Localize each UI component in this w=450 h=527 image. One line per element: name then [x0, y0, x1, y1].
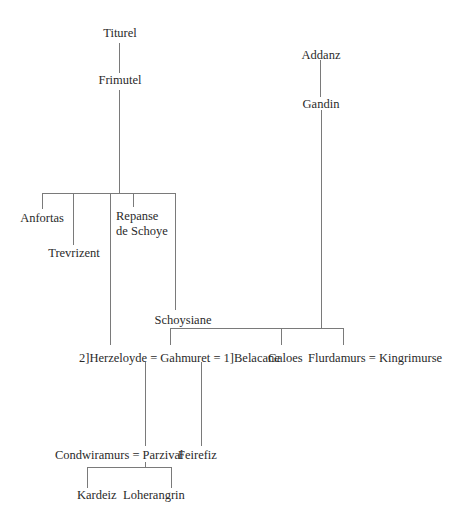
connector-gandin-children	[321, 110, 322, 328]
connector-herzeloyde-parzival	[145, 362, 146, 446]
node-addanz: Addanz	[302, 49, 341, 62]
node-schoysiane: Schoysiane	[155, 314, 212, 327]
sibling-bar-gandin	[170, 328, 344, 329]
connector-frimutel-children	[119, 90, 120, 193]
node-repanse-line1: Repanse	[116, 210, 158, 223]
node-gandin: Gandin	[303, 98, 340, 111]
drop-anfortas	[42, 193, 43, 209]
node-herzeloyde-gahmuret-belacane: 2]Herzeloyde = Gahmuret = 1]Belacane	[79, 352, 280, 365]
drop-trevrizent	[73, 193, 74, 245]
sibling-bar-parzival	[87, 467, 172, 468]
drop-repanse	[133, 193, 134, 207]
drop-galoes	[281, 328, 282, 345]
node-titurel: Titurel	[103, 27, 137, 40]
node-repanse-line2: de Schoye	[116, 225, 168, 238]
sibling-bar-frimutel	[42, 193, 176, 194]
drop-flurdamurs	[343, 328, 344, 345]
genealogy-tree: Titurel Frimutel Anfortas Trevrizent Rep…	[0, 0, 450, 527]
drop-schoysiane	[175, 193, 176, 310]
connector-titurel-frimutel	[119, 43, 120, 73]
node-loherangrin: Loherangrin	[123, 489, 185, 502]
drop-kardeiz	[87, 467, 88, 488]
drop-herzeloyde	[110, 193, 111, 345]
node-anfortas: Anfortas	[20, 212, 64, 225]
node-feirefiz: Feirefiz	[178, 449, 217, 462]
connector-belacane-feirefiz	[201, 362, 202, 446]
drop-loherangrin	[171, 467, 172, 488]
connector-addanz-gandin	[320, 60, 321, 97]
node-kardeiz: Kardeiz	[77, 489, 117, 502]
drop-gahmuret	[170, 328, 171, 345]
node-galoes: Galoes	[268, 352, 303, 365]
node-condwiramurs-parzival: Condwiramurs = Parzival	[55, 449, 184, 462]
node-frimutel: Frimutel	[98, 74, 141, 87]
node-trevrizent: Trevrizent	[48, 247, 100, 260]
node-flurdamurs-kingrimurse: Flurdamurs = Kingrimurse	[308, 352, 442, 365]
